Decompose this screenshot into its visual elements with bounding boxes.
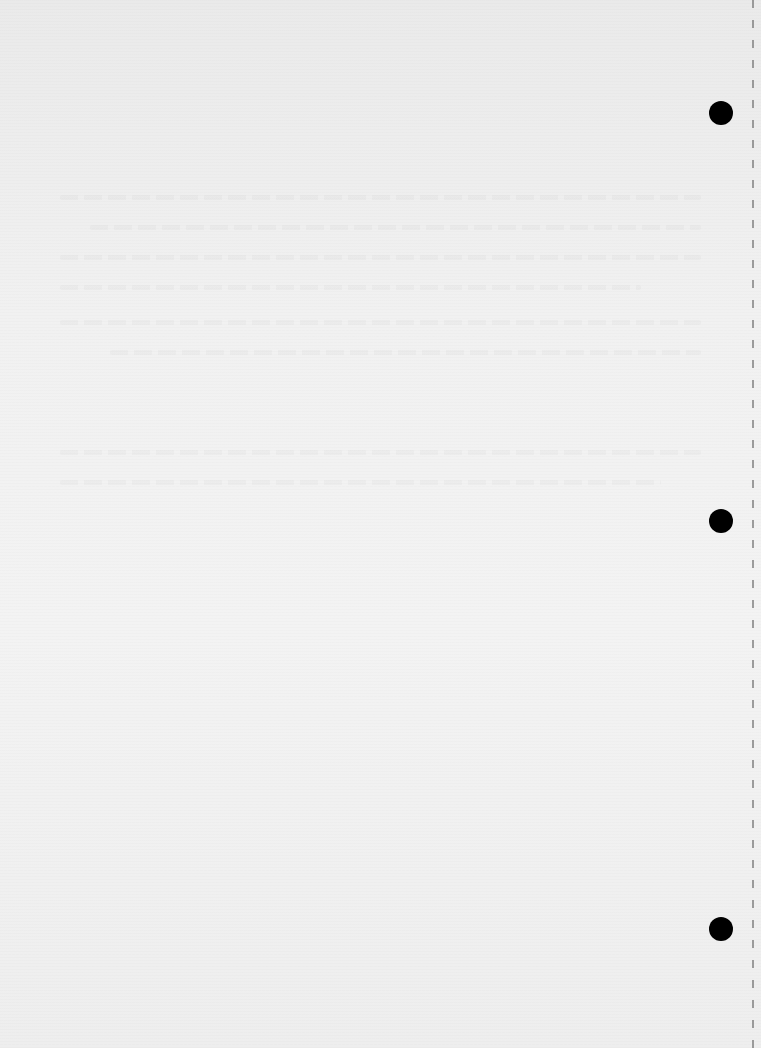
- punch-hole: [709, 917, 733, 941]
- show-through-line: [60, 320, 701, 325]
- blank-page: [0, 0, 761, 1048]
- show-through-line: [60, 480, 661, 485]
- show-through-line: [60, 255, 701, 260]
- show-through-line: [60, 195, 701, 200]
- show-through-line: [60, 450, 701, 455]
- show-through-line: [60, 285, 641, 290]
- punch-hole: [709, 509, 733, 533]
- show-through-line: [110, 350, 701, 355]
- punch-hole: [709, 101, 733, 125]
- show-through-line: [90, 225, 701, 230]
- perforation-line: [752, 0, 754, 1048]
